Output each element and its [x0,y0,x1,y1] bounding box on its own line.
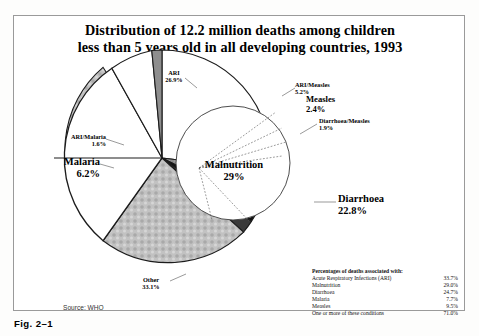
slice-label-measles: Measles 2.4% [306,94,362,114]
legend-row-label: Malaria [312,296,432,303]
slice-label-ari-malaria-name: ARI/Malaria [48,133,106,140]
legend-row-value: 9.5% [432,303,458,310]
legend-row-label: Measles [312,303,432,310]
legend-row-label: One or more of these conditions [312,310,432,317]
slice-label-diarrhoea-measles-value: 1.9% [319,124,389,131]
legend-row-label: Diarrhoea [312,289,432,296]
legend-table: Acute Respiratory Infections (ARI) 33.7%… [312,275,458,317]
slice-label-ari-value: 26.9% [148,76,200,83]
legend-row: Diarrhoea 24.7% [312,289,458,296]
slice-label-measles-value: 2.4% [306,104,362,114]
overlay-label-malnutrition: Malnutrition 29% [198,159,270,183]
slice-label-ari-measles-name: ARI/Measles [295,81,355,88]
slice-label-other: Other 33.1% [131,276,171,291]
slice-label-diarrhoea-measles: Diarrhoea/Measles 1.9% [319,117,389,132]
legend-row-value: 33.7% [432,275,458,282]
legend-row: Measles 9.5% [312,303,458,310]
overlay-label-malnutrition-value: 29% [198,171,270,183]
legend-row-value: 7.7% [432,296,458,303]
overlay-label-malnutrition-name: Malnutrition [198,159,270,171]
slice-label-diarrhoea-measles-name: Diarrhoea/Measles [319,117,389,124]
slice-label-ari-name: ARI [148,69,200,76]
slice-label-diarrhoea-value: 22.8% [338,205,398,217]
legend-row: One or more of these conditions 71.0% [312,310,458,317]
slice-label-diarrhoea: Diarrhoea 22.8% [338,193,398,217]
slice-label-malaria: Malaria 6.2% [40,156,100,180]
legend-row: Acute Respiratory Infections (ARI) 33.7% [312,275,458,282]
legend-row-value: 24.7% [432,289,458,296]
slice-label-malaria-value: 6.2% [40,168,100,180]
legend-row-value: 71.0% [432,310,458,317]
slice-label-measles-name: Measles [306,94,362,104]
slice-label-ari-malaria: ARI/Malaria 1.6% [48,133,106,148]
legend: Percentages of deaths associated with: A… [312,268,462,317]
slice-label-ari-malaria-value: 1.6% [48,140,106,147]
slice-label-diarrhoea-name: Diarrhoea [338,193,398,205]
legend-row-label: Acute Respiratory Infections (ARI) [312,275,432,282]
figure-frame: Distribution of 12.2 million deaths amon… [13,15,465,311]
legend-row-label: Malnutrition [312,282,432,289]
slice-label-other-value: 33.1% [131,283,171,290]
slice-label-other-name: Other [131,276,171,283]
figure-container: Distribution of 12.2 million deaths amon… [0,0,479,336]
slice-label-malaria-name: Malaria [40,156,100,168]
figure-caption: Fig. 2–1 [14,318,53,329]
slice-label-ari: ARI 26.9% [148,69,200,84]
legend-row-value: 29.0% [432,282,458,289]
legend-heading: Percentages of deaths associated with: [312,268,462,274]
legend-row: Malaria 7.7% [312,296,458,303]
legend-row: Malnutrition 29.0% [312,282,458,289]
source-note: Source: WHO [63,304,104,311]
